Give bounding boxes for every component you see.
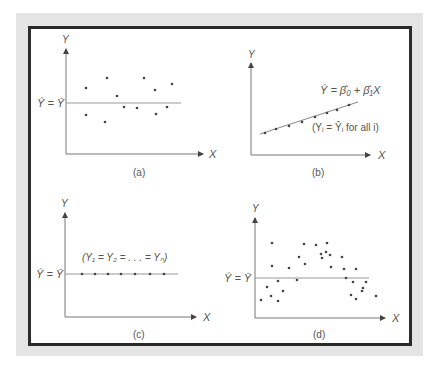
data-point [321,257,324,260]
data-point [320,253,323,256]
data-point [136,107,139,110]
data-point [298,256,301,259]
data-points [85,77,174,124]
data-point [134,273,137,276]
figure-plots: Y X Ŷ = Ȳ (a) Y X Ŷ = β̂₀ + β̂₁X (Yᵢ = Ŷ… [0,0,434,369]
data-point [304,263,307,266]
y-axis-label: Y [248,49,256,60]
data-point [171,83,174,86]
data-point [266,286,269,289]
panel-c: Y X Ŷ = Ȳ (Y₁ = Y₂ = . . . = Yₙ) (c) [36,198,211,340]
x-axis-label: X [377,149,386,161]
x-axis-label: X [202,311,211,323]
data-point [149,273,152,276]
y-axis-label: Y [62,34,70,45]
data-point [315,244,318,247]
regression-equation: Ŷ = β̂₀ + β̂₁X [320,84,381,96]
data-points [260,242,378,303]
panel-b: Y X Ŷ = β̂₀ + β̂₁X (Yᵢ = Ŷᵢ for all i) (… [248,49,386,178]
data-point [326,242,329,245]
data-point [143,77,146,80]
data-point [355,298,358,301]
data-point [282,290,285,293]
data-point [329,254,332,257]
data-point [120,273,123,276]
mean-line-label: Ŷ = Ȳ [36,268,64,280]
data-point [154,89,157,92]
panel-d: Y X Ŷ = Ȳ (d) [224,203,400,340]
data-point [106,77,109,80]
data-point [343,268,346,271]
data-point [350,294,353,297]
data-point [365,281,368,284]
data-point [355,268,358,271]
data-point [271,265,274,268]
y-axis-label: Y [61,198,69,209]
data-point [166,106,169,109]
y-axis-label: Y [252,203,260,214]
data-point [352,281,355,284]
x-axis-label: X [391,312,400,324]
data-point [271,242,274,245]
data-point [303,243,306,246]
data-point [362,287,365,290]
data-point [155,113,158,116]
data-point [85,87,88,90]
data-point [81,273,84,276]
data-point [326,112,329,115]
data-point [94,273,97,276]
data-point [348,104,351,107]
data-point [277,300,280,303]
mean-line-label: Ŷ = Ȳ [224,272,252,284]
data-point [264,132,267,135]
data-point [260,299,263,302]
data-point [107,273,110,276]
panel-caption: (b) [312,167,324,178]
x-axis-label: X [208,148,217,160]
panel-a: Y X Ŷ = Ȳ (a) [37,34,217,178]
data-point [275,128,278,131]
panel-caption: (d) [313,329,325,340]
data-point [330,266,333,269]
data-point [361,290,364,293]
data-point [116,95,119,98]
data-point [288,125,291,128]
data-point [301,121,304,124]
data-point [288,267,291,270]
data-point [270,295,273,298]
equal-values-note: (Y₁ = Y₂ = . . . = Yₙ) [82,252,167,263]
data-point [104,121,107,124]
panel-caption: (c) [133,329,145,340]
data-point [314,116,317,119]
data-point [336,109,339,112]
mean-line-label: Ŷ = Ȳ [37,97,65,109]
data-point [277,280,280,283]
fit-note: (Yᵢ = Ŷᵢ for all i) [312,121,379,133]
data-point [375,295,378,298]
data-point [85,114,88,117]
data-point [341,256,344,259]
data-point [345,277,348,280]
data-point [123,106,126,109]
data-point [296,279,299,282]
data-point [163,273,166,276]
panel-caption: (a) [133,167,145,178]
data-point [325,251,328,254]
